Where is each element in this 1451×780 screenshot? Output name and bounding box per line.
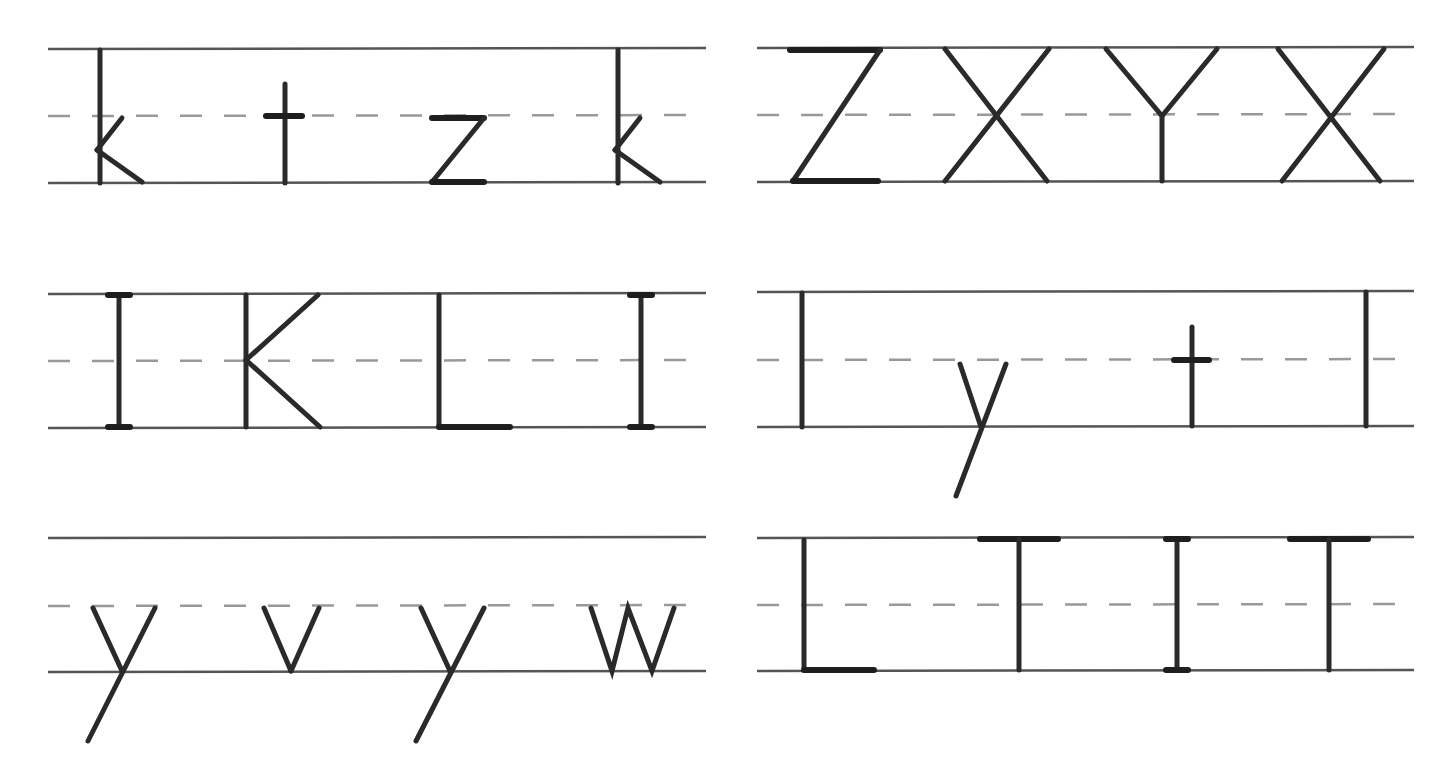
- panel-4: [757, 291, 1414, 496]
- letter-t: [1174, 327, 1209, 426]
- letter-y: [88, 608, 155, 741]
- letter-w: [591, 608, 674, 671]
- letter-z: [432, 118, 484, 182]
- worksheet-canvas: [0, 0, 1451, 780]
- letter-t: [266, 84, 302, 183]
- panel-6: [757, 537, 1414, 671]
- letter-y: [956, 364, 1006, 496]
- panel-5: [48, 537, 706, 741]
- letter-k: [615, 50, 660, 183]
- letter-y: [416, 608, 484, 741]
- panel-1: [48, 48, 706, 183]
- panel-3: [48, 293, 706, 428]
- panel-2: [757, 47, 1414, 182]
- letter-v: [264, 608, 319, 671]
